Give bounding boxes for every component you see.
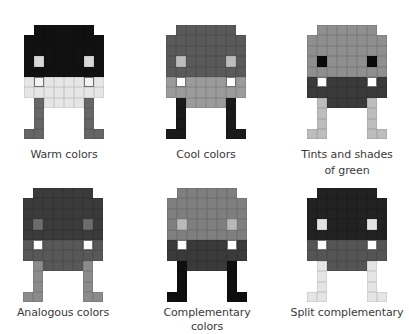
- pixel-character-icon: [307, 188, 387, 303]
- pixel-head: [73, 219, 83, 229]
- pixel-tooth: [83, 240, 93, 250]
- pixel-head: [43, 230, 53, 240]
- pixel-head: [237, 219, 247, 229]
- pixel-head: [327, 209, 337, 219]
- pixel-legs: [317, 98, 327, 108]
- pixel-eye: [176, 56, 186, 66]
- pixel-band: [377, 240, 387, 250]
- pixel-band: [43, 240, 53, 250]
- pixel-band: [357, 250, 367, 260]
- pixel-head: [347, 35, 357, 45]
- pixel-head: [367, 35, 377, 45]
- pixel-head: [327, 25, 337, 35]
- pixel-legs: [83, 271, 93, 281]
- pixel-legs: [177, 271, 187, 281]
- pixel-head: [207, 188, 217, 198]
- pixel-legs: [34, 108, 44, 118]
- pixel-head: [357, 188, 367, 198]
- pixel-head: [236, 56, 246, 66]
- pixel-head: [84, 67, 94, 77]
- pixel-band: [307, 250, 317, 260]
- pixel-band: [73, 250, 83, 260]
- pixel-legs: [367, 261, 377, 271]
- pixel-band: [307, 77, 317, 87]
- pixel-head: [23, 219, 33, 229]
- pixel-head: [307, 67, 317, 77]
- pixel-legs: [226, 119, 236, 129]
- pixel-band: [347, 250, 357, 260]
- pixel-head: [53, 219, 63, 229]
- pixel-head: [93, 230, 103, 240]
- pixel-head: [367, 230, 377, 240]
- pixel-legs: [177, 261, 187, 271]
- pixel-character-icon: [166, 25, 246, 140]
- pixel-band: [44, 87, 54, 97]
- pixel-head: [227, 198, 237, 208]
- pixel-band: [24, 87, 34, 97]
- pixel-legs: [33, 292, 43, 302]
- pixel-band: [317, 250, 327, 260]
- pixel-tooth: [367, 240, 377, 250]
- pixel-head: [206, 25, 216, 35]
- pixel-head: [166, 67, 176, 77]
- pixel-band: [377, 77, 387, 87]
- pixel-legs: [317, 282, 327, 292]
- figure-label-warm: Warm colors: [4, 148, 124, 162]
- pixel-body: [186, 98, 196, 108]
- pixel-head: [34, 46, 44, 56]
- pixel-head: [196, 56, 206, 66]
- pixel-head: [167, 209, 177, 219]
- pixel-head: [34, 35, 44, 45]
- pixel-body: [327, 261, 337, 271]
- pixel-legs: [367, 98, 377, 108]
- pixel-legs: [177, 292, 187, 302]
- pixel-legs: [227, 292, 237, 302]
- pixel-body: [63, 261, 73, 271]
- pixel-legs: [166, 129, 176, 139]
- pixel-body: [53, 261, 63, 271]
- pixel-band: [24, 77, 34, 87]
- pixel-band: [177, 250, 187, 260]
- pixel-legs: [34, 129, 44, 139]
- pixel-head: [74, 35, 84, 45]
- pixel-band: [207, 250, 217, 260]
- pixel-eye: [226, 56, 236, 66]
- pixel-head: [317, 188, 327, 198]
- pixel-head: [227, 188, 237, 198]
- pixel-band: [317, 87, 327, 97]
- pixel-band: [357, 77, 367, 87]
- pixel-head: [357, 230, 367, 240]
- pixel-head: [93, 209, 103, 219]
- pixel-head: [44, 25, 54, 35]
- pixel-band: [34, 87, 44, 97]
- pixel-eye: [317, 219, 327, 229]
- pixel-head: [196, 46, 206, 56]
- pixel-head: [166, 46, 176, 56]
- pixel-legs: [84, 119, 94, 129]
- pixel-head: [73, 209, 83, 219]
- pixel-head: [63, 188, 73, 198]
- pixel-body: [357, 98, 367, 108]
- pixel-band: [54, 77, 64, 87]
- pixel-head: [317, 67, 327, 77]
- pixel-head: [63, 230, 73, 240]
- pixel-band: [217, 250, 227, 260]
- pixel-head: [327, 46, 337, 56]
- pixel-legs: [367, 119, 377, 129]
- pixel-head: [317, 25, 327, 35]
- pixel-head: [176, 25, 186, 35]
- pixel-head: [377, 56, 387, 66]
- pixel-head: [357, 46, 367, 56]
- pixel-head: [317, 35, 327, 45]
- pixel-band: [197, 240, 207, 250]
- pixel-band: [206, 77, 216, 87]
- pixel-head: [94, 56, 104, 66]
- pixel-head: [367, 188, 377, 198]
- pixel-head: [337, 46, 347, 56]
- pixel-head: [196, 35, 206, 45]
- pixel-head: [177, 209, 187, 219]
- pixel-head: [357, 198, 367, 208]
- pixel-head: [186, 56, 196, 66]
- pixel-head: [347, 230, 357, 240]
- pixel-eye: [84, 56, 94, 66]
